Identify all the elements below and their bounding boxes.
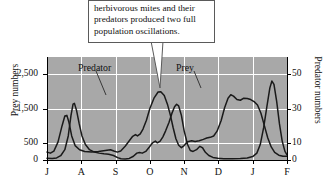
series-label-prey: Prey: [176, 62, 194, 73]
callout-box: herbivorous mites and their predators pr…: [88, 0, 215, 43]
callout-line-1: herbivorous mites and their: [94, 3, 209, 14]
callout-line-2: predators produced two full: [94, 14, 209, 25]
series-label-predator: Predator: [78, 62, 111, 73]
callout-line-3: population oscillations.: [94, 26, 209, 37]
figure-panel: herbivorous mites and their predators pr…: [0, 0, 326, 186]
